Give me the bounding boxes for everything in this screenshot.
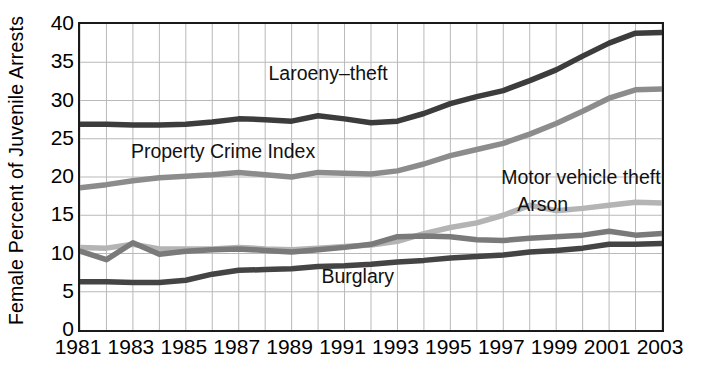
y-tick-label: 30 <box>30 88 74 109</box>
x-tick-label: 1989 <box>266 336 313 357</box>
x-tick-label: 2001 <box>584 336 631 357</box>
y-tick-label: 15 <box>30 203 74 224</box>
x-tick-label: 1987 <box>213 336 260 357</box>
x-tick-label: 1997 <box>478 336 525 357</box>
y-axis-tick-labels: 0510152025303540 <box>24 0 74 388</box>
y-tick-label: 5 <box>30 279 74 300</box>
x-tick-label: 1985 <box>160 336 207 357</box>
y-tick-label: 25 <box>30 126 74 147</box>
chart-figure: Female Percent of Juvenile Arrests 05101… <box>0 0 708 388</box>
series-label-4: Burglary <box>321 267 394 287</box>
y-tick-label: 20 <box>30 165 74 186</box>
series-label-3: Arson <box>517 195 568 215</box>
y-tick-label: 40 <box>30 12 74 33</box>
series-label-1: Property Crime Index <box>131 142 315 162</box>
y-tick-label: 35 <box>30 50 74 71</box>
x-tick-label: 1999 <box>531 336 578 357</box>
series-label-0: Laroeny–theft <box>268 64 387 84</box>
x-tick-label: 1981 <box>55 336 102 357</box>
x-tick-label: 1983 <box>108 336 155 357</box>
x-tick-label: 1995 <box>425 336 472 357</box>
x-tick-label: 1991 <box>319 336 366 357</box>
x-tick-label: 1993 <box>372 336 419 357</box>
y-tick-label: 10 <box>30 241 74 262</box>
x-axis-tick-labels: 1981198319851987198919911993199519971999… <box>0 336 708 376</box>
x-tick-label: 2003 <box>637 336 684 357</box>
series-label-2: Motor vehicle theft <box>501 168 660 188</box>
